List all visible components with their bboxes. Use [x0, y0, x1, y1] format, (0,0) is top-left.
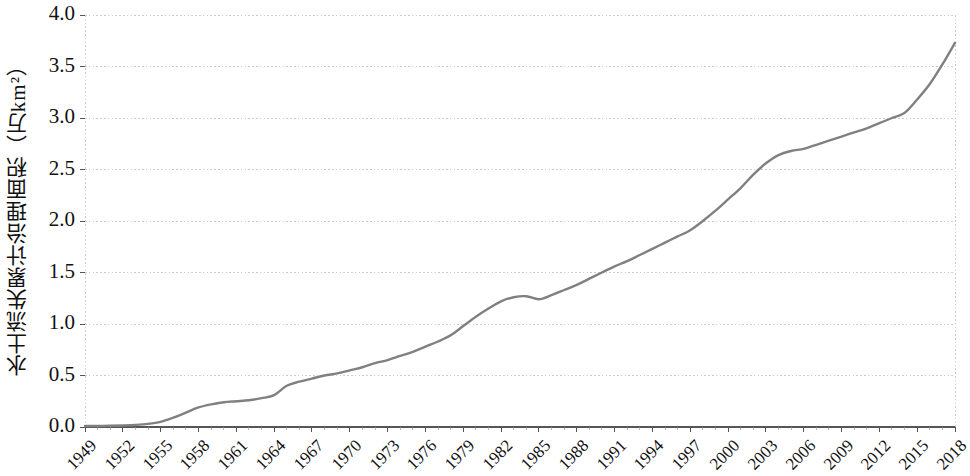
- chart-container: 水土流失累计治理面积（万km²） 0.00.51.01.52.02.53.03.…: [0, 0, 970, 476]
- y-tick-label: 4.0: [21, 1, 75, 26]
- y-tick-label: 2.0: [21, 207, 75, 232]
- y-tick-label: 1.0: [21, 310, 75, 335]
- y-tick-label: 3.0: [21, 104, 75, 129]
- tick-marks: [80, 15, 955, 432]
- y-tick-label: 2.5: [21, 156, 75, 181]
- y-tick-label: 3.5: [21, 53, 75, 78]
- data-series-line: [85, 43, 955, 426]
- line-chart-plot: [0, 0, 970, 476]
- gridlines: [85, 15, 955, 376]
- y-tick-label: 0.5: [21, 362, 75, 387]
- y-tick-label: 0.0: [21, 413, 75, 438]
- y-tick-label: 1.5: [21, 259, 75, 284]
